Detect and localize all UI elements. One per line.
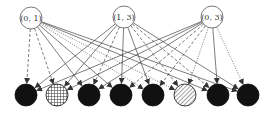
output-node-b2-solid <box>78 84 100 106</box>
input-node-label: (0, 1) <box>20 14 42 23</box>
input-node-label: (0, 3) <box>201 13 223 22</box>
edge-t0-b7-solid <box>41 22 236 91</box>
edge-t2-b1-solid <box>68 22 203 90</box>
edge-t2-b3-dashed <box>130 24 204 87</box>
edge-t0-b4-dotted <box>40 24 143 89</box>
edge-t2-b6-solid <box>213 28 217 83</box>
edge-t2-b0-solid <box>37 21 202 90</box>
edge-t2-b7-dotted <box>217 27 243 84</box>
output-node-b7-solid <box>237 84 259 106</box>
edge-t2-b4-dashed <box>160 26 205 86</box>
output-node-b1-grid <box>46 84 68 106</box>
output-node-b0-solid <box>15 84 37 106</box>
output-node-b4-solid <box>142 84 164 106</box>
input-node-label: (1, 3) <box>113 13 135 22</box>
bipartite-graph-diagram: (0, 1)(1, 3)(0, 3) <box>0 0 272 113</box>
output-node-b5-diagonal <box>174 84 196 106</box>
edge-t1-b7-solid <box>133 23 238 89</box>
edge-t1-b1-solid <box>65 25 117 86</box>
edge-t0-b3-solid <box>39 25 112 87</box>
edge-t0-b0-dashed <box>27 29 31 83</box>
edge-t0-b5-dotted <box>41 23 175 90</box>
edges-layer <box>27 21 243 91</box>
output-node-b3-solid <box>110 84 132 106</box>
edge-t2-b2-solid <box>99 23 203 89</box>
output-node-b6-solid <box>207 84 229 106</box>
edge-t2-b5-dotted <box>189 27 209 83</box>
output-nodes <box>15 84 259 106</box>
edge-t1-b6-dashed <box>133 24 209 87</box>
